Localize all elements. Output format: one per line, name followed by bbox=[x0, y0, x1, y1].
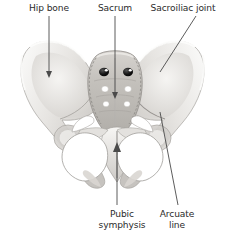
pelvis-figure: Hip bone Sacrum Sacroiliac joint Pubic s… bbox=[0, 0, 225, 238]
label-arcuate-line: Arcuate line bbox=[160, 209, 195, 230]
bone-mass bbox=[21, 41, 204, 188]
label-arcuate-line-line1: Arcuate bbox=[160, 209, 195, 220]
label-sacroiliac-joint: Sacroiliac joint bbox=[151, 3, 216, 14]
label-hip-bone-line1: Hip bone bbox=[29, 3, 69, 14]
label-pubic-symphysis: Pubic symphysis bbox=[99, 209, 146, 230]
label-hip-bone: Hip bone bbox=[29, 3, 69, 14]
label-sacroiliac-joint-line1: Sacroiliac joint bbox=[151, 3, 216, 14]
label-sacrum-line1: Sacrum bbox=[98, 3, 132, 14]
label-pubic-symphysis-line2: symphysis bbox=[99, 220, 146, 231]
label-sacrum: Sacrum bbox=[98, 3, 132, 14]
label-pubic-symphysis-line1: Pubic bbox=[99, 209, 146, 220]
pelvis-illustration bbox=[0, 0, 225, 238]
label-arcuate-line-line2: line bbox=[160, 220, 195, 231]
